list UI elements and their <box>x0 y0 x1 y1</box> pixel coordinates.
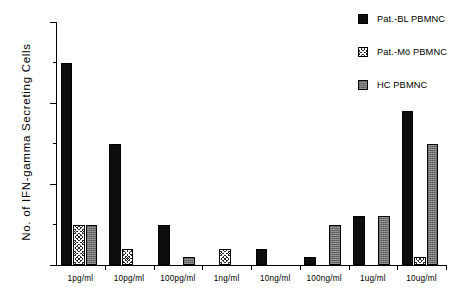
bar-1pg/ml-hc-pbmnc <box>86 225 98 266</box>
x-tick-3 <box>251 265 252 270</box>
bar-10ug/ml-hc-pbmnc <box>427 144 439 266</box>
legend-item-pat-m-pbmnc: Pat.-Mö PBMNC <box>358 47 447 57</box>
legend-label: Pat.-BL PBMNC <box>377 14 445 24</box>
x-tick-label-10ng/ml: 10ng/ml <box>251 274 300 283</box>
bar-100ng/ml-hc-pbmnc <box>329 225 341 266</box>
legend-item-hc-pbmnc: HC PBMNC <box>358 80 427 90</box>
x-tick-2 <box>202 265 203 270</box>
x-tick-label-10pg/ml: 10pg/ml <box>105 274 154 283</box>
bar-100pg/ml-hc-pbmnc <box>183 257 195 265</box>
x-tick-label-1ug/ml: 1ug/ml <box>349 274 398 283</box>
x-tick-7 <box>446 265 447 270</box>
x-tick-label-1pg/ml: 1pg/ml <box>56 274 105 283</box>
x-tick-0 <box>105 265 106 270</box>
x-tick-1 <box>154 265 155 270</box>
x-tick-5 <box>349 265 350 270</box>
x-tick-label-1ng/ml: 1ng/ml <box>202 274 251 283</box>
legend-swatch-icon <box>358 80 368 90</box>
legend-label: HC PBMNC <box>377 80 427 90</box>
x-tick-label-100ng/ml: 100ng/ml <box>300 274 349 283</box>
bars-layer <box>56 22 446 265</box>
bar-1ng/ml-pat-m-pbmnc <box>219 249 231 265</box>
legend-swatch-icon <box>358 47 368 57</box>
bar-100pg/ml-pat-bl-pbmnc <box>158 225 170 266</box>
bar-10pg/ml-pat-bl-pbmnc <box>109 144 121 266</box>
legend-item-pat-bl-pbmnc: Pat.-BL PBMNC <box>358 14 445 24</box>
bar-10ug/ml-pat-bl-pbmnc <box>402 111 414 265</box>
legend-label: Pat.-Mö PBMNC <box>377 47 447 57</box>
bar-1pg/ml-pat-m-pbmnc <box>73 225 85 266</box>
x-tick-label-10ug/ml: 10ug/ml <box>397 274 446 283</box>
bar-chart-figure: No. of IFN-gamma Secreting Cells 0102030… <box>0 0 457 297</box>
bar-1ug/ml-hc-pbmnc <box>378 216 390 265</box>
bar-10ug/ml-pat-m-pbmnc <box>414 257 426 265</box>
x-tick-label-100pg/ml: 100pg/ml <box>154 274 203 283</box>
legend-swatch-icon <box>358 14 368 24</box>
bar-1ug/ml-pat-bl-pbmnc <box>353 216 365 265</box>
x-tick-6 <box>397 265 398 270</box>
y-axis-title: No. of IFN-gamma Secreting Cells <box>20 12 32 272</box>
x-tick-4 <box>300 265 301 270</box>
bar-1pg/ml-pat-bl-pbmnc <box>61 63 73 266</box>
bar-10pg/ml-pat-m-pbmnc <box>122 249 134 265</box>
bar-100ng/ml-pat-bl-pbmnc <box>304 257 316 265</box>
plot-area: 0102030 1pg/ml10pg/ml100pg/ml1ng/ml10ng/… <box>56 22 446 265</box>
bar-10ng/ml-pat-bl-pbmnc <box>256 249 268 265</box>
